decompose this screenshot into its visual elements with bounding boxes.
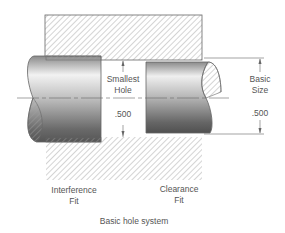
smallest-hole-dimension [122, 61, 125, 138]
clearance-fit-label: Clearance Fit [154, 184, 204, 206]
interference-fit-label: Interference Fit [44, 185, 104, 207]
bottom-hole-block [46, 137, 202, 180]
basic-size-label-line2: Size [243, 85, 277, 96]
smallest-hole-value: .500 [110, 109, 136, 120]
basic-size-label-line1: Basic [243, 74, 277, 85]
clearance-fit-line1: Clearance [154, 184, 204, 195]
hole-system-diagram [0, 0, 285, 233]
diagram-caption: Basic hole system [93, 216, 175, 227]
basic-size-label: Basic Size [243, 74, 277, 96]
right-shaft-clearance [146, 62, 221, 133]
interference-fit-line2: Fit [44, 196, 104, 207]
interference-strip-bottom [46, 138, 101, 142]
interference-fit-line1: Interference [44, 185, 104, 196]
basic-size-value: .500 [247, 108, 273, 119]
smallest-hole-label-line1: Smallest [104, 74, 142, 85]
smallest-hole-label-line2: Hole [104, 85, 142, 96]
interference-strip-top [46, 56, 101, 60]
smallest-hole-label: Smallest Hole [104, 74, 142, 96]
left-shaft-interference [28, 56, 102, 142]
top-hole-block [45, 15, 202, 60]
clearance-fit-line2: Fit [154, 195, 204, 206]
